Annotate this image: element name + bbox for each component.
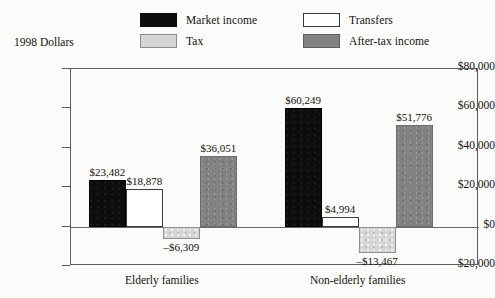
chart-figure: Market income Tax Transfers After-tax in…	[0, 0, 495, 298]
bar-value-label: $18,878	[112, 175, 176, 187]
bar-tax-nonelderly	[359, 227, 396, 254]
y-axis-tick	[62, 226, 70, 227]
bar-transfers-elderly	[126, 189, 163, 226]
bar-aftertax-elderly	[200, 156, 237, 227]
legend-swatch-market-income-icon	[140, 13, 177, 27]
y-axis-tick	[62, 186, 70, 187]
bar-value-label: $36,051	[186, 142, 250, 154]
legend-label-tax: Tax	[186, 35, 203, 47]
legend-swatch-after-tax-income-icon	[303, 34, 340, 48]
legend-swatch-transfers-icon	[303, 13, 340, 27]
bar-aftertax-nonelderly	[396, 125, 433, 227]
y-axis-title: 1998 Dollars	[14, 36, 74, 48]
legend-label-market-income: Market income	[186, 14, 257, 26]
bar-value-label: $51,776	[382, 111, 446, 123]
bar-value-label: –$6,309	[149, 241, 213, 253]
legend-item-transfers: Transfers	[303, 13, 393, 27]
bar-tax-elderly	[163, 227, 200, 239]
bar-value-label: $60,249	[271, 94, 335, 106]
x-axis-label-elderly: Elderly families	[82, 274, 242, 286]
chart-legend: Market income Tax Transfers After-tax in…	[0, 0, 495, 56]
plot-area: $23,482$18,878–$6,309$36,051$60,249$4,99…	[70, 68, 478, 265]
legend-item-tax: Tax	[140, 34, 203, 48]
legend-item-market-income: Market income	[140, 13, 257, 27]
bar-value-label: $4,994	[308, 203, 372, 215]
bar-value-label: –$13,467	[345, 255, 409, 267]
legend-label-transfers: Transfers	[349, 14, 393, 26]
legend-label-after-tax-income: After-tax income	[349, 35, 429, 47]
legend-swatch-tax-icon	[140, 34, 177, 48]
y-axis-tick	[62, 265, 70, 266]
y-axis-tick	[62, 68, 70, 69]
bar-transfers-nonelderly	[322, 217, 359, 227]
legend-item-after-tax-income: After-tax income	[303, 34, 429, 48]
x-axis-label-nonelderly: Non-elderly families	[278, 274, 438, 286]
y-axis-tick	[62, 147, 70, 148]
y-axis-tick	[62, 107, 70, 108]
zero-baseline	[71, 227, 479, 228]
